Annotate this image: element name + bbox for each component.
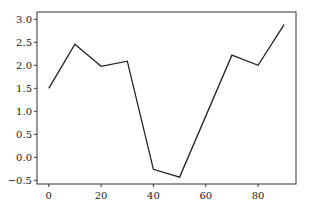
- line-chart: −0.50.00.51.01.52.02.53.0 020406080: [0, 0, 312, 215]
- x-tick-label: 80: [252, 190, 265, 201]
- x-tick-label: 60: [199, 190, 212, 201]
- y-tick-label: 0.0: [16, 152, 32, 163]
- y-tick-label: −0.5: [8, 175, 32, 186]
- data-line: [49, 24, 284, 177]
- x-tick-label: 20: [95, 190, 108, 201]
- x-tick-label: 40: [147, 190, 160, 201]
- x-tick-label: 0: [46, 190, 52, 201]
- y-tick-label: 2.0: [16, 60, 32, 71]
- y-tick-label: 0.5: [16, 129, 32, 140]
- y-tick-label: 2.5: [16, 37, 32, 48]
- x-axis-ticks: 020406080: [46, 184, 265, 201]
- y-tick-label: 1.0: [16, 106, 32, 117]
- y-axis-ticks: −0.50.00.51.01.52.02.53.0: [8, 14, 37, 186]
- y-tick-label: 1.5: [16, 83, 32, 94]
- plot-frame: [37, 12, 296, 184]
- y-tick-label: 3.0: [16, 14, 32, 25]
